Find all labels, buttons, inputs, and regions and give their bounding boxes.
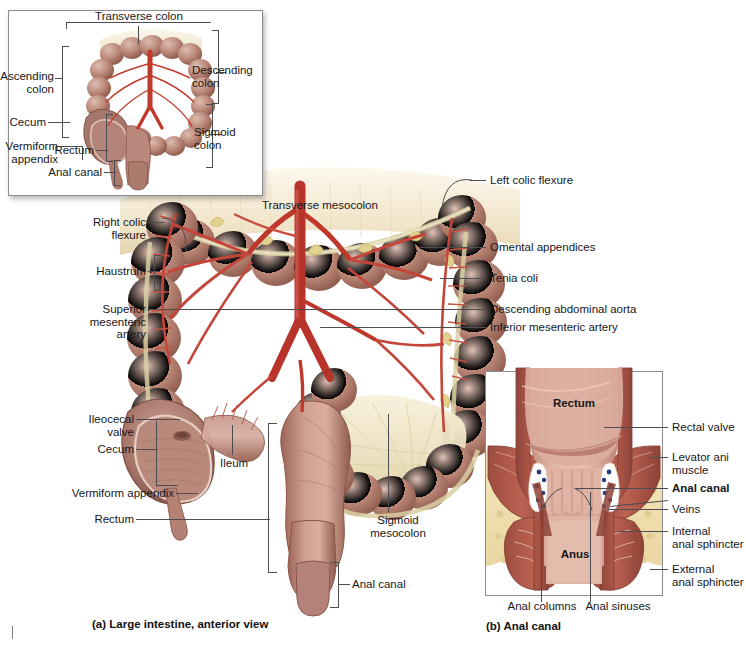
sigmoid-mesocolon-leader bbox=[388, 414, 389, 512]
label-anus-inset: Anus bbox=[530, 548, 620, 561]
label-descending-abdominal-aorta: Descending abdominal aorta bbox=[490, 303, 636, 316]
vermiform-appendix-leader bbox=[176, 493, 198, 494]
panel-b-caption: (b) Anal canal bbox=[486, 620, 561, 632]
label-cecum: Cecum bbox=[56, 443, 134, 456]
rectum-leader bbox=[136, 519, 270, 520]
label-haustrum: Haustrum bbox=[60, 265, 146, 278]
inset-cecum-leader bbox=[48, 122, 70, 123]
label-rectum-inset: Rectum bbox=[526, 397, 622, 410]
label-left-colic-flexure: Left colic flexure bbox=[490, 174, 573, 187]
inset-ascending-leader bbox=[55, 78, 63, 79]
inset-label-ascending-colon: Ascending colon bbox=[0, 70, 54, 95]
external-anal-sphincter-leader bbox=[650, 569, 668, 570]
descending-abdominal-aorta-leader bbox=[308, 309, 486, 310]
omental-appendices-leader bbox=[420, 247, 486, 248]
anal-canal-main-bracket bbox=[330, 562, 339, 608]
inset-label-sigmoid-colon: Sigmoid colon bbox=[194, 126, 260, 151]
superior-mesenteric-artery-leader bbox=[148, 309, 308, 310]
inset-anal-canal-bracket bbox=[114, 160, 121, 186]
cecum-leader-tip bbox=[156, 485, 178, 486]
label-internal-anal-sphincter: Internal anal sphincter bbox=[672, 525, 744, 550]
left-colic-flexure-arc bbox=[440, 170, 476, 214]
tenia-coli-leader bbox=[440, 278, 486, 279]
label-omental-appendices: Omental appendices bbox=[490, 241, 595, 254]
haustrum-bracket bbox=[154, 255, 162, 291]
inset-label-anal-canal: Anal canal bbox=[36, 166, 102, 179]
label-levator-ani-muscle: Levator ani muscle bbox=[672, 451, 729, 476]
label-ileocecal-valve: Ileocecal valve bbox=[56, 413, 134, 438]
inset-label-descending-colon: Descending colon bbox=[192, 64, 262, 89]
label-external-anal-sphincter: External anal sphincter bbox=[672, 563, 744, 588]
veins-leader bbox=[608, 509, 668, 510]
label-vermiform-appendix: Vermiform appendix bbox=[38, 487, 174, 500]
levator-ani-muscle-leader bbox=[650, 457, 668, 458]
label-sigmoid-mesocolon: Sigmoid mesocolon bbox=[358, 514, 438, 539]
figure-canvas: Transverse colon Ascending colon Descend… bbox=[0, 0, 746, 645]
inferior-mesenteric-artery-leader bbox=[320, 327, 486, 328]
label-anal-canal-inset: Anal canal bbox=[672, 482, 730, 495]
label-rectum: Rectum bbox=[56, 513, 134, 526]
page-registration-tick bbox=[12, 626, 13, 639]
inset-rectum-leader bbox=[96, 150, 108, 151]
anal-canal-main-leader bbox=[338, 584, 350, 585]
label-rectal-valve: Rectal valve bbox=[672, 421, 735, 434]
inset-label-cecum: Cecum bbox=[0, 116, 46, 129]
rectal-valve-leader bbox=[604, 427, 668, 428]
right-colic-flexure-arc bbox=[160, 212, 194, 258]
cecum-leader bbox=[136, 449, 156, 450]
anal-sinuses-pointer bbox=[570, 486, 600, 512]
inset-label-transverse-colon: Transverse colon bbox=[82, 10, 196, 23]
inset-anal-canal-leader bbox=[104, 172, 116, 173]
inset-label-rectum: Rectum bbox=[40, 144, 94, 157]
label-right-colic-flexure: Right colic flexure bbox=[60, 216, 146, 241]
label-veins: Veins bbox=[672, 503, 700, 516]
ileum-leader bbox=[232, 425, 233, 455]
label-anal-sinuses: Anal sinuses bbox=[570, 600, 666, 613]
label-anal-canal-main: Anal canal bbox=[352, 578, 406, 591]
inset-ascending-bracket bbox=[62, 46, 69, 138]
label-superior-mesenteric-artery: Superior mesenteric artery bbox=[56, 303, 146, 341]
rectum-bracket bbox=[268, 423, 277, 573]
inset-transverse-bracket bbox=[66, 22, 211, 29]
panel-a-caption: (a) Large intestine, anterior view bbox=[92, 618, 268, 630]
inset-rectum-bracket bbox=[106, 114, 113, 162]
cecum-leader-v bbox=[156, 421, 157, 485]
label-tenia-coli: Tenia coli bbox=[490, 272, 538, 285]
label-ileum: Ileum bbox=[220, 457, 248, 470]
label-inferior-mesenteric-artery: Inferior mesenteric artery bbox=[490, 321, 618, 334]
ileocecal-valve-leader bbox=[136, 419, 180, 420]
internal-anal-sphincter-leader bbox=[618, 531, 668, 532]
label-transverse-mesocolon: Transverse mesocolon bbox=[262, 199, 378, 212]
